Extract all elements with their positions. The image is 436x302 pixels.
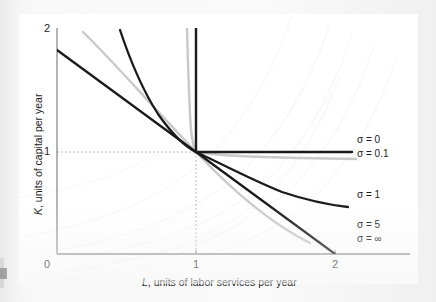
- y-axis-title-rest: , units of capital per year: [32, 94, 44, 208]
- curve-sigma-0: [196, 28, 352, 152]
- guide-lines: [57, 152, 196, 254]
- legend-label-sigma-infinity: σ = ∞: [357, 233, 382, 244]
- xtick-label-1: 1: [193, 258, 199, 270]
- legend-label-sigma-5: σ = 5: [357, 219, 380, 230]
- isoquant-curves: [57, 28, 371, 254]
- legend-label-sigma-1: σ = 1: [357, 189, 380, 200]
- watermark-curves: [19, 16, 396, 284]
- x-axis-title-rest: , units of labor services per year: [148, 276, 297, 288]
- legend-label-sigma-0-1: σ = 0.1: [357, 148, 388, 159]
- figure-page: 2 1 0 1 2 K, units of capital per year L…: [0, 0, 436, 302]
- y-axis-title-symbol: K: [32, 208, 44, 215]
- x-axis-title: L, units of labor services per year: [142, 276, 297, 288]
- ytick-label-1: 1: [44, 145, 50, 157]
- y-axis-title: K, units of capital per year: [32, 94, 44, 215]
- curve-sigma-0-1: [187, 28, 371, 159]
- ytick-label-0: 0: [44, 258, 50, 270]
- xtick-label-2: 2: [332, 258, 338, 270]
- ytick-label-2: 2: [44, 22, 50, 34]
- legend-label-sigma-0: σ = 0: [357, 134, 380, 145]
